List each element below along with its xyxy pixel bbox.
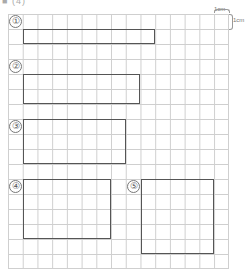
scale-side-label: 1cm <box>233 17 244 23</box>
shape-label-5: ⑤ <box>127 180 140 193</box>
shape-label-1: ① <box>9 15 22 28</box>
shape-label-3: ③ <box>9 120 22 133</box>
rectangle-2 <box>23 74 141 104</box>
shape-label-2: ② <box>9 60 22 73</box>
square-5 <box>141 179 215 254</box>
rectangle-1 <box>23 29 156 44</box>
scale-top-brace <box>214 9 230 13</box>
scale-side-brace <box>229 14 233 30</box>
shape-label-4: ④ <box>9 180 22 193</box>
rectangle-3 <box>23 119 126 164</box>
partial-header: ■ (4) <box>2 0 26 6</box>
rectangle-4 <box>23 179 111 239</box>
